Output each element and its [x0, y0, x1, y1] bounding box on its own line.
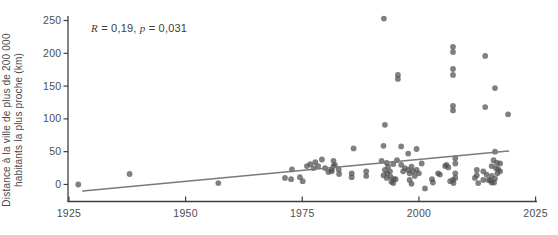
- data-point: [416, 170, 422, 176]
- p-value: = 0,031: [145, 22, 187, 34]
- data-point: [393, 176, 399, 182]
- data-point: [398, 144, 404, 150]
- data-point: [288, 176, 294, 182]
- data-point: [480, 177, 486, 183]
- data-point: [127, 171, 133, 177]
- data-point: [382, 122, 388, 128]
- data-point: [452, 175, 458, 181]
- data-point: [505, 111, 511, 117]
- data-point: [409, 181, 415, 187]
- data-point: [430, 180, 436, 186]
- x-tick-label: 1925: [57, 207, 82, 219]
- r-value: = 0,19,: [98, 22, 140, 34]
- data-point: [300, 178, 306, 184]
- trend-line: [83, 151, 509, 191]
- data-point: [497, 168, 503, 174]
- data-point: [419, 161, 425, 167]
- y-axis-title-line2: habitants la plus proche (km): [13, 53, 24, 187]
- data-point: [349, 174, 355, 180]
- data-point: [475, 180, 481, 186]
- data-point: [450, 66, 456, 72]
- data-point: [452, 161, 458, 167]
- scatter-plot-figure: 19251950197520002025050100150200250 Dist…: [0, 0, 558, 235]
- data-point: [381, 16, 387, 22]
- data-point: [492, 85, 498, 91]
- data-point: [450, 108, 456, 114]
- data-point: [474, 172, 480, 178]
- data-point: [437, 172, 443, 178]
- data-point: [351, 146, 357, 152]
- chart-generated-layer: 19251950197520002025050100150200250: [43, 14, 548, 218]
- data-point: [336, 171, 342, 177]
- data-point: [450, 44, 456, 50]
- data-point: [482, 53, 488, 59]
- data-point: [422, 186, 428, 192]
- y-tick-label: 150: [43, 80, 61, 92]
- data-point: [474, 167, 480, 173]
- correlation-annotation: R = 0,19, p = 0,031: [91, 22, 187, 34]
- data-point: [329, 168, 335, 174]
- data-point: [484, 172, 490, 178]
- data-point: [497, 161, 503, 167]
- data-point: [215, 180, 221, 186]
- data-point: [319, 157, 325, 163]
- x-tick-label: 2025: [523, 207, 548, 219]
- y-tick-label: 100: [43, 112, 61, 124]
- data-point: [450, 72, 456, 78]
- data-point: [414, 146, 420, 152]
- data-point: [363, 173, 369, 179]
- y-tick-label: 200: [43, 47, 61, 59]
- y-tick-label: 50: [49, 145, 61, 157]
- y-tick-label: 250: [43, 14, 61, 26]
- y-tick-label: 0: [55, 178, 61, 190]
- data-point: [450, 49, 456, 55]
- x-tick-label: 1975: [290, 207, 315, 219]
- data-point: [482, 104, 488, 110]
- x-tick-label: 2000: [407, 207, 432, 219]
- chart-canvas: 19251950197520002025050100150200250 Dist…: [0, 0, 558, 235]
- data-point: [282, 175, 288, 181]
- data-point: [445, 165, 451, 171]
- y-axis-title-line1: Distance à la ville de plus de 200 000: [1, 33, 12, 207]
- r-symbol: R: [91, 22, 98, 34]
- data-point: [451, 180, 457, 186]
- data-point: [492, 176, 498, 182]
- data-point: [395, 76, 401, 82]
- data-point: [381, 143, 387, 149]
- data-point: [75, 182, 81, 188]
- data-point: [405, 151, 411, 157]
- data-point: [387, 168, 393, 174]
- x-tick-label: 1950: [173, 207, 198, 219]
